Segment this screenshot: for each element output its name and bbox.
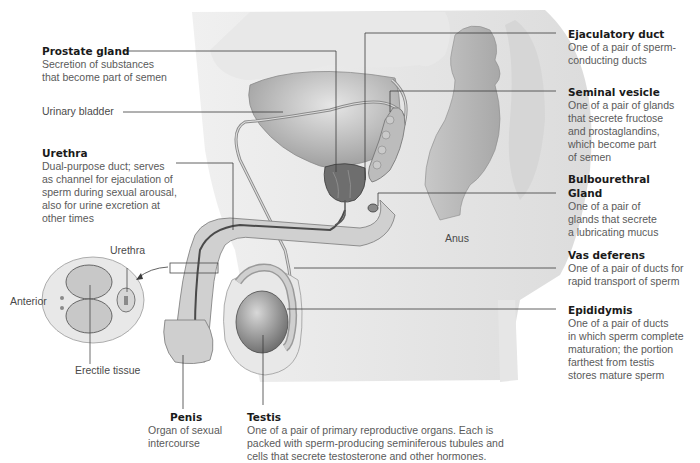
label-desc: One of a pair of glands that secrete fru… — [568, 99, 674, 164]
label-title: Bulbourethral Gland — [568, 172, 658, 200]
label-penis: Penis Organ of sexual intercourse — [148, 410, 222, 450]
label-desc: One of a pair of ducts for rapid transpo… — [568, 262, 684, 288]
testis — [236, 291, 288, 353]
label-desc: One of a pair of primary reproductive or… — [247, 424, 504, 463]
label-title: Vas deferens — [568, 248, 684, 262]
label-title: Seminal vesicle — [568, 85, 674, 99]
cross-section-arrow — [138, 267, 168, 278]
label-desc: One of a pair of sperm- conducting ducts — [568, 41, 676, 67]
label-urethra: Urethra Dual-purpose duct; serves as cha… — [42, 146, 177, 225]
label-title: Penis — [148, 410, 222, 424]
label-epididymis: Epididymis One of a pair of ducts in whi… — [568, 303, 684, 382]
label-desc: One of a pair of ducts in which sperm co… — [568, 317, 684, 382]
label-title: Ejaculatory duct — [568, 27, 676, 41]
label-ejaculatory-duct: Ejaculatory duct One of a pair of sperm-… — [568, 27, 676, 67]
label-title: Urethra — [42, 146, 177, 160]
label-seminal-vesicle: Seminal vesicle One of a pair of glands … — [568, 85, 674, 164]
label-urinary-bladder: Urinary bladder — [42, 105, 114, 117]
inset-label-urethra: Urethra — [110, 244, 145, 256]
bulbourethral-gland — [368, 204, 378, 212]
label-desc: One of a pair of glands that secrete a l… — [568, 200, 658, 239]
inset-label-anterior: Anterior — [10, 295, 47, 307]
label-title: Epididymis — [568, 303, 684, 317]
label-testis: Testis One of a pair of primary reproduc… — [247, 410, 504, 463]
penis-cross-section-inset — [42, 257, 144, 364]
label-anus: Anus — [445, 232, 469, 244]
label-bulbourethral-gland: Bulbourethral Gland One of a pair of gla… — [568, 172, 658, 239]
label-desc: Dual-purpose duct; serves as channel for… — [42, 160, 177, 225]
label-title: Testis — [247, 410, 504, 424]
label-title: Prostate gland — [42, 44, 167, 58]
inset-label-erectile-tissue: Erectile tissue — [75, 364, 140, 376]
label-desc: Organ of sexual intercourse — [148, 424, 222, 450]
label-desc: Secretion of substances that become part… — [42, 58, 167, 84]
label-vas-deferens: Vas deferens One of a pair of ducts for … — [568, 248, 684, 288]
label-prostate-gland: Prostate gland Secretion of substances t… — [42, 44, 167, 84]
